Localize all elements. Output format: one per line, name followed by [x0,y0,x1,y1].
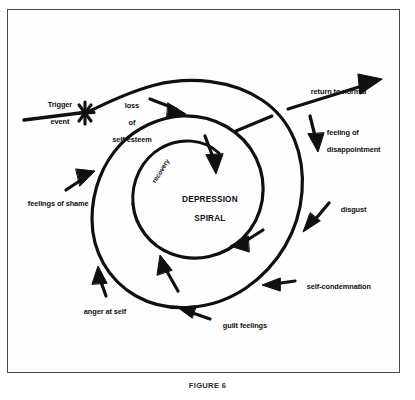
figure-caption: FIGURE 6 [0,381,415,390]
arrow-feelings-of-shame-head [76,169,95,186]
arrow-loss-of-self-esteem-head [167,103,186,117]
label-depression-spiral: DEPRESSION SPIRAL [160,185,250,233]
label-loss-of-self-esteem: loss of self-esteem [101,94,155,153]
arrow-self-condemnation-head [262,278,280,291]
loss-line3: self-esteem [112,135,152,144]
arrow-anger-at-self-head [92,266,107,284]
guilt-feelings-text: guilt feelings [223,321,267,330]
exit-segment-short [236,116,272,131]
trigger-event-line2: event [51,117,70,126]
label-feelings-of-shame: feelings of shame [20,192,89,217]
arrow-inner-right-head [206,154,223,174]
label-anger-at-self: anger at self [76,300,126,325]
arrow-inner-lower-head [230,236,249,252]
disappointment-line2: disappointment [327,145,381,154]
self-condemnation-text: self-condemnation [307,282,371,291]
return-to-normal-text: return to normal [311,87,366,96]
arrow-inner-lower-left-head [157,255,172,275]
recovery-text: recovery [151,158,171,184]
anger-at-self-text: anger at self [84,307,126,316]
label-feeling-of-disappointment: feeling of disappointment [319,121,380,163]
disappointment-line1: feeling of [327,128,359,137]
figure-caption-area: FIGURE 6 [0,374,415,400]
label-self-condemnation: self-condemnation [299,275,371,300]
core-line1: DEPRESSION [182,195,238,204]
disgust-text: disgust [341,205,367,214]
label-disgust: disgust [333,198,366,223]
figure-container: Trigger event loss of self-esteem return… [0,0,415,400]
label-return-to-normal: return to normal [303,80,366,105]
trigger-event-line1: Trigger [48,100,72,109]
feelings-of-shame-text: feelings of shame [28,199,89,208]
label-trigger-event: Trigger event [32,93,80,135]
loss-line2: of [129,118,136,127]
loss-line1: loss [125,101,139,110]
arrow-guilt-feelings-head [177,306,196,318]
label-guilt-feelings: guilt feelings [215,314,267,339]
core-line2: SPIRAL [194,214,225,223]
